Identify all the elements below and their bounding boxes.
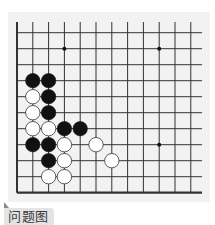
white-stone [57,170,71,184]
star-point [62,47,66,51]
black-stone [41,106,55,120]
black-stone [41,74,55,88]
black-stone [26,74,40,88]
black-stone [41,154,55,168]
black-stone [73,122,87,136]
white-stone [105,154,119,168]
star-point [157,143,161,147]
black-stone [41,90,55,104]
star-point [157,47,161,51]
white-stone [41,170,55,184]
white-stone [41,122,55,136]
white-stone [57,138,71,152]
go-board-diagram [0,0,215,205]
board-background [8,12,210,202]
caption-label: 问题图 [8,209,49,224]
white-stone [26,90,40,104]
black-stone [26,138,40,152]
black-stone [57,122,71,136]
white-stone [57,154,71,168]
go-board [0,0,215,205]
black-stone [41,138,55,152]
white-stone [26,122,40,136]
white-stone [89,138,103,152]
white-stone [26,106,40,120]
